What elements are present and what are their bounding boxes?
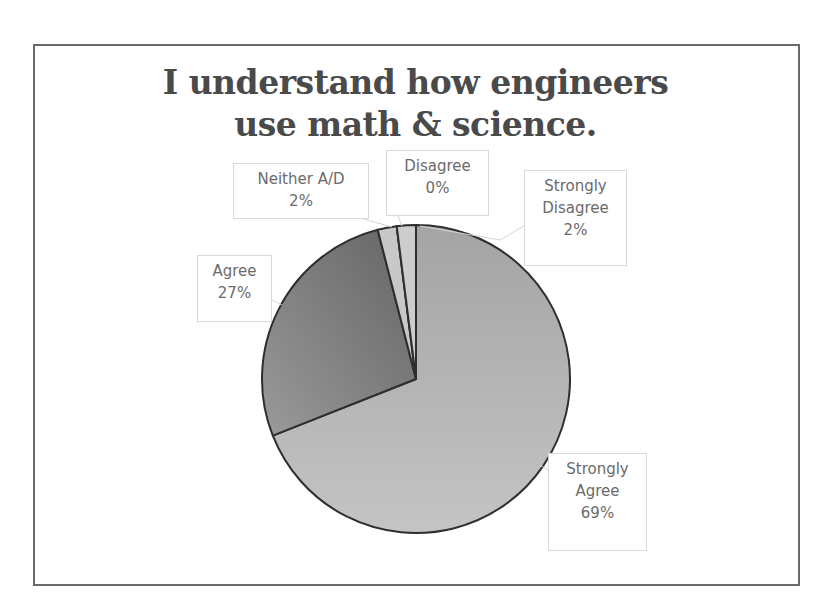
data-label-strongly-agree: Strongly Agree 69%: [548, 453, 647, 551]
label-text: Disagree: [387, 155, 488, 177]
label-value: 2%: [234, 190, 368, 212]
label-text: Neither A/D: [234, 168, 368, 190]
data-label-strongly-disagree: Strongly Disagree 2%: [524, 170, 627, 266]
data-label-disagree: Disagree 0%: [386, 150, 489, 216]
callout-neither: [360, 218, 392, 227]
label-value: 2%: [525, 219, 626, 241]
data-label-agree: Agree 27%: [197, 255, 272, 322]
pie-chart: [0, 0, 831, 613]
data-label-neither: Neither A/D 2%: [233, 163, 369, 219]
label-text: Strongly: [549, 458, 646, 480]
label-text: Strongly: [525, 175, 626, 197]
label-text: Agree: [198, 260, 271, 282]
label-text: Agree: [549, 480, 646, 502]
label-value: 0%: [387, 177, 488, 199]
label-value: 27%: [198, 282, 271, 304]
label-value: 69%: [549, 502, 646, 524]
callout-disagree: [398, 216, 402, 226]
pie-slices: [262, 225, 570, 533]
callout-agree: [272, 300, 282, 305]
label-text: Disagree: [525, 197, 626, 219]
